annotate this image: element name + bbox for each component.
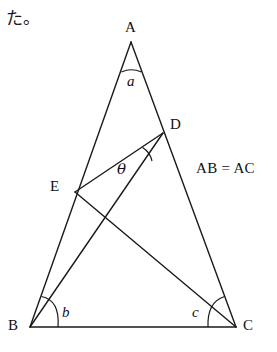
condition-text: AB = AC — [196, 160, 255, 177]
angle-label-theta: θ — [117, 162, 126, 177]
angle-label-c: c — [192, 305, 199, 320]
angle-arc-a — [122, 70, 142, 72]
angle-arcs — [42, 70, 225, 327]
angle-label-a: a — [127, 74, 135, 89]
vertex-label-E: E — [50, 179, 59, 194]
segment-AB — [30, 42, 131, 327]
segment-AC — [131, 42, 236, 327]
angle-label-b: b — [62, 305, 70, 320]
vertex-label-A: A — [125, 20, 136, 35]
japanese-note: た。 — [6, 4, 40, 29]
segment-BD — [30, 133, 163, 327]
vertex-label-B: B — [8, 318, 18, 333]
angle-arc-theta — [143, 148, 153, 162]
vertex-label-D: D — [170, 117, 181, 132]
angle-arc-c — [208, 297, 225, 328]
vertex-label-C: C — [243, 318, 253, 333]
angle-arc-b — [42, 297, 59, 328]
